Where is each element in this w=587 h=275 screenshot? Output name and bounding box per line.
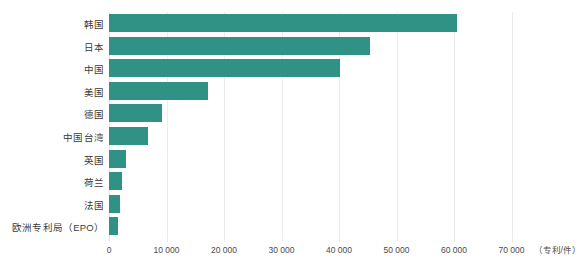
- category-label: 中国: [0, 61, 104, 79]
- bar[interactable]: [109, 195, 120, 213]
- category-label: 欧洲专利局（EPO）: [0, 219, 104, 237]
- bar[interactable]: [109, 82, 208, 100]
- category-label: 德国: [0, 106, 104, 124]
- category-label: 美国: [0, 84, 104, 102]
- x-tick-label: 0: [107, 243, 112, 257]
- x-tick-label: 60 000: [441, 243, 467, 257]
- category-label: 英国: [0, 152, 104, 170]
- bar[interactable]: [109, 127, 148, 145]
- bar[interactable]: [109, 217, 118, 235]
- bar-chart: 韩国日本中国美国德国中国台湾英国荷兰法国欧洲专利局（EPO） （专利/件） 01…: [0, 0, 587, 275]
- category-label: 韩国: [0, 16, 104, 34]
- bar[interactable]: [109, 59, 340, 77]
- category-label: 荷兰: [0, 174, 104, 192]
- bar[interactable]: [109, 104, 162, 122]
- bar[interactable]: [109, 172, 122, 190]
- x-tick-label: 40 000: [326, 243, 352, 257]
- axis-unit-label: （专利/件）: [534, 243, 581, 257]
- bars-layer: [109, 12, 523, 242]
- bar[interactable]: [109, 37, 370, 55]
- category-label: 中国台湾: [0, 129, 104, 147]
- plot-area: [109, 12, 523, 242]
- x-tick-label: 10 000: [154, 243, 180, 257]
- bar[interactable]: [109, 14, 457, 32]
- value-axis: （专利/件） 010 00020 00030 00040 00050 00060…: [109, 243, 587, 259]
- x-tick-label: 50 000: [384, 243, 410, 257]
- category-label: 法国: [0, 197, 104, 215]
- x-tick-label: 30 000: [269, 243, 295, 257]
- category-axis: 韩国日本中国美国德国中国台湾英国荷兰法国欧洲专利局（EPO）: [0, 14, 104, 240]
- bar[interactable]: [109, 150, 126, 168]
- x-tick-label: 70 000: [499, 243, 525, 257]
- category-label: 日本: [0, 39, 104, 57]
- x-tick-label: 20 000: [211, 243, 237, 257]
